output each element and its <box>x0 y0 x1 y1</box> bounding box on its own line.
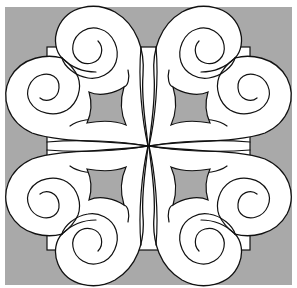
pattern-svg <box>0 0 297 288</box>
center-point <box>147 145 149 147</box>
quilt-pattern-figure: Quilt block pattern: four-way mirrored h… <box>0 0 297 288</box>
